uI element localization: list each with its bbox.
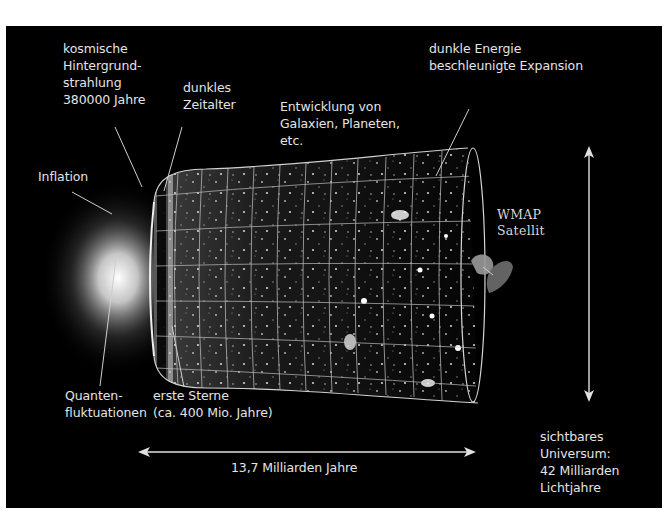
label-observable-universe: sichtbares Universum: 42 Milliarden Lich… (540, 428, 619, 496)
label-line: fluktuationen (65, 404, 147, 421)
label-dark-energy: dunkle Energie beschleunigte Expansion (429, 40, 583, 74)
label-time-span: 13,7 Milliarden Jahre (231, 459, 357, 476)
label-wmap-satellite: WMAP Satellit (497, 207, 545, 239)
label-line: Hintergrund- (63, 57, 145, 74)
label-line: etc. (280, 132, 400, 149)
label-line: Galaxien, Planeten, (280, 115, 400, 132)
label-line: WMAP (497, 207, 545, 223)
label-line: Entwicklung von (280, 98, 400, 115)
label-line: Universum: (540, 445, 619, 462)
label-line: strahlung (63, 74, 145, 91)
label-line: 42 Milliarden (540, 462, 619, 479)
label-inflation: Inflation (38, 168, 88, 185)
label-line: 13,7 Milliarden Jahre (231, 459, 357, 476)
label-line: dunkles (183, 79, 236, 96)
label-line: beschleunigte Expansion (429, 57, 583, 74)
label-line: Satellit (497, 223, 545, 239)
label-line: Quanten- (65, 387, 147, 404)
label-cosmic-background-radiation: kosmische Hintergrund- strahlung 380000 … (63, 40, 145, 108)
universe-cone-icon (146, 136, 486, 416)
diagram-panel: kosmische Hintergrund- strahlung 380000 … (6, 26, 662, 508)
label-quantum-fluctuations: Quanten- fluktuationen (65, 387, 147, 421)
label-line: Inflation (38, 168, 88, 185)
label-dark-age: dunkles Zeitalter (183, 79, 236, 113)
label-line: kosmische (63, 40, 145, 57)
label-line: dunkle Energie (429, 40, 583, 57)
wmap-satellite-icon (471, 254, 513, 293)
label-line: sichtbares (540, 428, 619, 445)
label-line: Lichtjahre (540, 479, 619, 496)
label-line: 380000 Jahre (63, 91, 145, 108)
observable-universe-arrow (584, 146, 594, 402)
label-line: (ca. 400 Mio. Jahre) (153, 404, 273, 421)
label-first-stars: erste Sterne (ca. 400 Mio. Jahre) (153, 387, 273, 421)
label-line: erste Sterne (153, 387, 273, 404)
time-span-arrow (138, 447, 476, 457)
label-galaxy-development: Entwicklung von Galaxien, Planeten, etc. (280, 98, 400, 149)
label-line: Zeitalter (183, 96, 236, 113)
